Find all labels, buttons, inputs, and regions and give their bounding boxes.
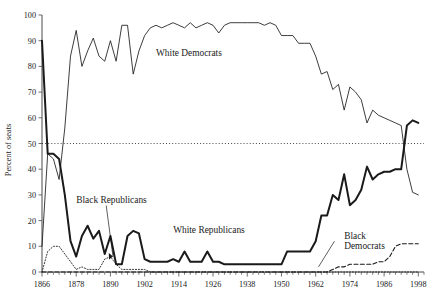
y-tick-label: 80 [28, 62, 36, 71]
black-democrats-line2: Democrats [344, 241, 385, 251]
annotations-group: White DemocratsBlack RepublicansWhite Re… [76, 48, 385, 267]
y-axis-title: Percent of seats [4, 124, 13, 177]
black-democrats-leader-line [319, 241, 335, 267]
x-tick-label: 1890 [102, 280, 118, 289]
x-tick-label: 1986 [376, 280, 392, 289]
x-tick-label: 1914 [171, 280, 187, 289]
x-tick-label: 1878 [68, 280, 84, 289]
y-tick-label: 100 [24, 11, 36, 20]
x-tick-label: 1962 [307, 280, 323, 289]
x-tick-label: 1866 [34, 280, 50, 289]
y-tick-label: 10 [28, 242, 36, 251]
axis-titles-group: Percent of seats [4, 124, 13, 177]
y-tick-label: 0 [32, 268, 36, 277]
y-tick-label: 20 [28, 217, 36, 226]
y-tick-label: 40 [28, 165, 36, 174]
black-democrats-line1: Black [344, 231, 366, 241]
x-tick-label: 1950 [273, 280, 289, 289]
y-tick-label: 70 [28, 88, 36, 97]
x-tick-label: 1938 [239, 280, 255, 289]
y-tick-label: 50 [28, 140, 36, 149]
x-tick-label: 1974 [342, 280, 358, 289]
axes-group [39, 15, 425, 277]
figure-container: 0102030405060708090100186618781890190219… [0, 0, 433, 304]
series-white-democrats [42, 23, 418, 247]
line-chart: 0102030405060708090100186618781890190219… [0, 0, 433, 304]
x-tick-label: 1902 [136, 280, 152, 289]
white-democrats-label: White Democrats [156, 48, 222, 58]
x-tick-label: 1926 [205, 280, 221, 289]
y-tick-label: 60 [28, 114, 36, 123]
x-tick-label: 1998 [410, 280, 426, 289]
y-tick-label: 30 [28, 191, 36, 200]
black-republicans-label: Black Republicans [76, 195, 147, 205]
y-tick-label: 90 [28, 37, 36, 46]
white-republicans-label: White Republicans [173, 225, 245, 235]
